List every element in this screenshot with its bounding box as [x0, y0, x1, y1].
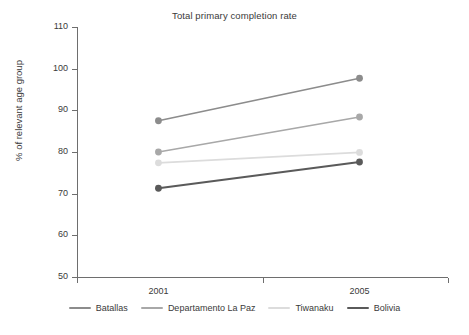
- x-tick: [263, 278, 264, 283]
- chart-legend: BatallasDepartamento La PazTiwanakuBoliv…: [0, 303, 469, 313]
- legend-label: Bolivia: [374, 303, 401, 313]
- data-point: [356, 114, 363, 121]
- x-tick-label: 2005: [330, 286, 390, 296]
- y-tick-label: 80: [38, 146, 68, 156]
- data-point: [155, 117, 162, 124]
- legend-label: Departamento La Paz: [168, 303, 256, 313]
- data-point: [155, 159, 162, 166]
- y-tick-label: 90: [38, 104, 68, 114]
- y-tick: [72, 69, 77, 70]
- data-point: [356, 75, 363, 82]
- y-axis-spine: [77, 27, 78, 278]
- legend-line-icon: [347, 307, 369, 310]
- chart-title: Total primary completion rate: [0, 10, 469, 21]
- data-point: [155, 185, 162, 192]
- series-line: [158, 78, 359, 121]
- series-line: [158, 162, 359, 188]
- legend-item-departamento-la-paz[interactable]: Departamento La Paz: [141, 303, 256, 313]
- y-tick-label: 60: [38, 229, 68, 239]
- legend-item-bolivia[interactable]: Bolivia: [347, 303, 401, 313]
- y-axis-label: % of relevant age group: [13, 41, 24, 181]
- x-tick-label: 2001: [128, 286, 188, 296]
- data-point: [155, 149, 162, 156]
- y-tick: [72, 110, 77, 111]
- series-batallas: [155, 75, 363, 124]
- y-tick-label: 70: [38, 188, 68, 198]
- series-line: [158, 152, 359, 162]
- series-plot-layer: [0, 0, 469, 335]
- y-tick-label: 110: [38, 21, 68, 31]
- series-line: [158, 117, 359, 152]
- series-bolivia: [155, 159, 363, 192]
- y-tick: [72, 152, 77, 153]
- chart-container: Total primary completion rate % of relev…: [0, 0, 469, 335]
- legend-line-icon: [69, 307, 91, 309]
- y-tick: [72, 27, 77, 28]
- legend-label: Batallas: [96, 303, 128, 313]
- y-tick: [72, 235, 77, 236]
- legend-label: Tiwanaku: [295, 303, 333, 313]
- x-tick: [77, 278, 78, 283]
- y-tick-label: 50: [38, 271, 68, 281]
- series-departamento-la-paz: [155, 114, 363, 156]
- series-tiwanaku: [155, 149, 363, 166]
- data-point: [356, 149, 363, 156]
- y-tick-label: 100: [38, 63, 68, 73]
- y-tick: [72, 194, 77, 195]
- legend-line-icon: [268, 307, 290, 309]
- legend-item-tiwanaku[interactable]: Tiwanaku: [268, 303, 333, 313]
- data-point: [356, 159, 363, 166]
- legend-item-batallas[interactable]: Batallas: [69, 303, 128, 313]
- x-tick: [448, 278, 449, 283]
- legend-line-icon: [141, 307, 163, 309]
